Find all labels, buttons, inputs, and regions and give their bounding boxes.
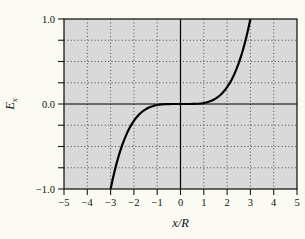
x-tick-label: 3 (248, 197, 253, 208)
figure: 1.00.0−1.0−5−4−3−2−1012345Exx/R (0, 0, 305, 239)
x-tick-label: −3 (105, 197, 116, 208)
chart-canvas: 1.00.0−1.0−5−4−3−2−1012345Exx/R (0, 0, 305, 239)
x-tick-label: −1 (152, 197, 163, 208)
x-tick-label: −5 (58, 197, 69, 208)
x-tick-label: −2 (128, 197, 139, 208)
x-axis-label: x/R (171, 216, 189, 230)
x-tick-label: 5 (294, 197, 299, 208)
x-tick-label: −4 (82, 197, 94, 208)
x-tick-label: 1 (201, 197, 206, 208)
y-tick-label: 1.0 (42, 14, 55, 25)
x-tick-label: 2 (224, 197, 229, 208)
y-tick-label: 0.0 (42, 99, 55, 110)
x-tick-label: 4 (271, 197, 277, 208)
y-tick-label: −1.0 (36, 184, 55, 195)
x-tick-label: 0 (178, 197, 183, 208)
y-axis-label: Ex (3, 98, 19, 111)
